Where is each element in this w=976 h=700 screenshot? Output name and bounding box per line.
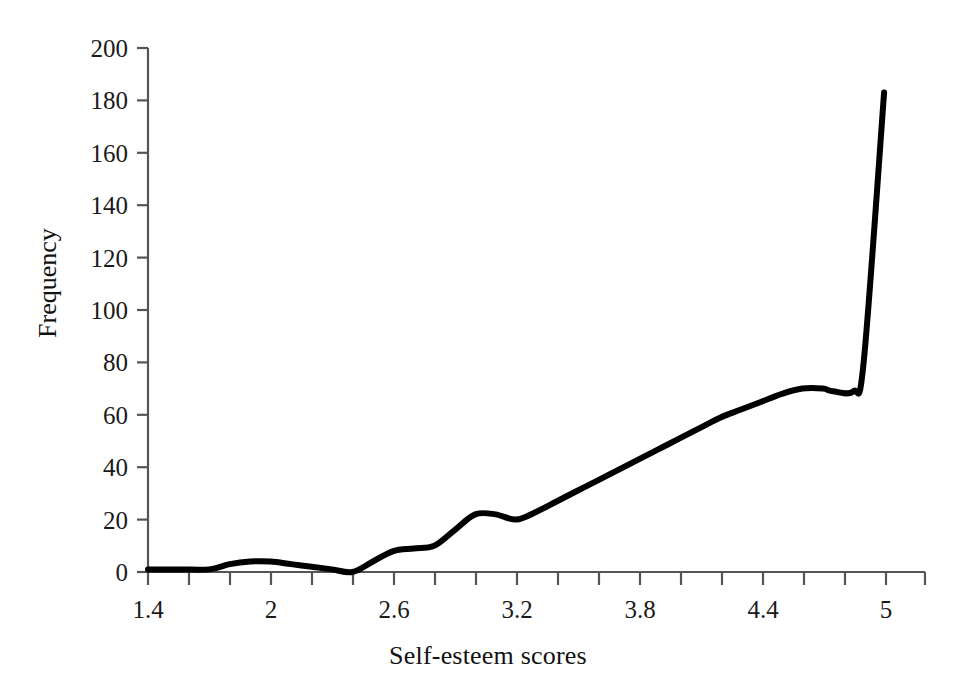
ytick-label-180: 180 <box>40 88 128 113</box>
x-axis-ticks <box>148 572 925 585</box>
ytick-label-40: 40 <box>40 455 128 480</box>
xtick-label-1-4: 1.4 <box>132 597 163 622</box>
xtick-label-3-2: 3.2 <box>501 597 532 622</box>
frequency-polygon-chart: 0 20 40 60 80 100 120 140 160 180 200 1.… <box>0 0 976 700</box>
y-axis-title: Frequency <box>33 193 63 373</box>
xtick-label-4-4: 4.4 <box>747 597 778 622</box>
ytick-label-0: 0 <box>40 560 128 585</box>
data-series-line <box>148 93 884 573</box>
ytick-label-60: 60 <box>40 402 128 427</box>
chart-canvas <box>0 0 976 700</box>
ytick-label-200: 200 <box>40 36 128 61</box>
x-axis-title: Self-esteem scores <box>0 641 976 671</box>
ytick-label-20: 20 <box>40 507 128 532</box>
y-axis-ticks <box>137 48 148 572</box>
xtick-label-2-6: 2.6 <box>378 597 409 622</box>
xtick-label-3-8: 3.8 <box>624 597 655 622</box>
xtick-label-5: 5 <box>880 597 893 622</box>
xtick-label-2: 2 <box>265 597 278 622</box>
ytick-label-160: 160 <box>40 140 128 165</box>
